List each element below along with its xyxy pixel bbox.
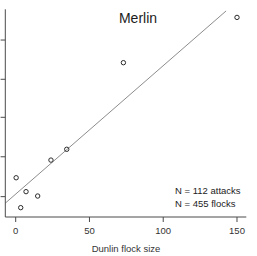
data-point <box>121 60 125 64</box>
x-tick-labels-group: 050100150 <box>13 225 245 236</box>
trend-line-group <box>5 11 226 203</box>
points-group <box>14 15 239 210</box>
regression-line <box>5 11 226 203</box>
merlin-scatter-figure: Merlin 050100150 N = 112 attacks N = 455… <box>0 0 257 256</box>
data-point <box>235 15 239 19</box>
annotation-attacks: N = 112 attacks <box>175 185 241 196</box>
x-tick-label: 100 <box>155 225 171 236</box>
x-tick-label: 150 <box>229 225 245 236</box>
plot-title: Merlin <box>119 10 157 26</box>
data-point <box>24 189 28 193</box>
annotation-flocks: N = 455 flocks <box>175 198 236 209</box>
data-point <box>14 176 18 180</box>
data-point <box>49 158 53 162</box>
scatter-plot: Merlin 050100150 N = 112 attacks N = 455… <box>0 0 257 256</box>
data-point <box>19 205 23 209</box>
x-axis-label: Dunlin flock size <box>92 243 161 254</box>
x-tick-label: 0 <box>13 225 18 236</box>
x-tick-label: 50 <box>84 225 95 236</box>
data-point <box>35 194 39 198</box>
